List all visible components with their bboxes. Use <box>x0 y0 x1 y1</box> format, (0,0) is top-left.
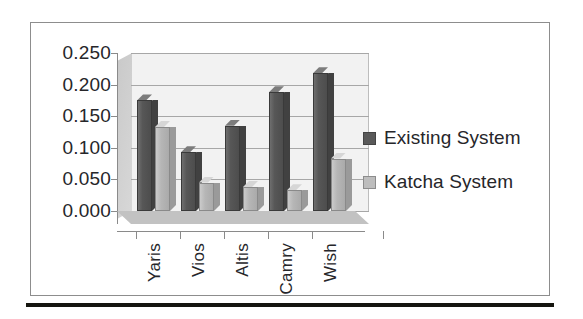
y-axis-tick-label: 0.200 <box>45 75 111 94</box>
plot-area <box>117 45 369 230</box>
legend-label: Katcha System <box>384 171 513 193</box>
x-axis-tick-mark <box>224 231 225 239</box>
bar-camry-katcha <box>287 190 302 211</box>
bar-vios-existing <box>181 152 196 211</box>
y-axis: 0.2500.2000.1500.1000.0500.000 <box>37 23 111 297</box>
bar-front-face <box>225 126 240 211</box>
bar-wish-existing <box>313 73 328 211</box>
bar-front-face <box>287 190 302 211</box>
y-axis-tick-label: 0.050 <box>45 169 111 188</box>
x-axis-label-camry: Camry <box>278 243 295 295</box>
y-axis-tick-label: 0.150 <box>45 106 111 125</box>
bar-front-face <box>137 100 152 211</box>
y-axis-tick-mark <box>111 85 118 86</box>
bar-front-face <box>155 127 170 211</box>
x-axis-tick-mark <box>180 231 181 239</box>
bar-side-face <box>170 127 176 211</box>
bar-altis-katcha <box>243 187 258 211</box>
y-axis-tick-label: 0.100 <box>45 138 111 157</box>
y-axis-tick-mark <box>111 53 118 54</box>
y-axis-tick-mark <box>111 211 118 212</box>
legend-label: Existing System <box>384 127 521 149</box>
chart-legend: Existing SystemKatcha System <box>363 127 543 215</box>
legend-item-katcha-system: Katcha System <box>363 171 543 193</box>
bar-yaris-katcha <box>155 127 170 211</box>
dark-swatch-icon <box>363 132 376 145</box>
y-axis-tick-label: 0.250 <box>45 43 111 62</box>
figure-frame: 0.2500.2000.1500.1000.0500.000 YarisVios… <box>30 22 550 296</box>
x-axis-tick-mark <box>383 231 384 239</box>
bar-side-face <box>346 159 352 211</box>
bar-front-face <box>313 73 328 211</box>
x-axis-tick-mark <box>268 231 269 239</box>
bar-front-face <box>269 92 284 211</box>
light-swatch-icon <box>363 176 376 189</box>
bar-camry-existing <box>269 92 284 211</box>
y-axis-line <box>117 53 118 224</box>
y-axis-tick-mark <box>111 148 118 149</box>
plot-left-wall <box>117 53 132 219</box>
gridline <box>131 53 369 54</box>
x-axis-label-yaris: Yaris <box>146 243 163 282</box>
bar-front-face <box>181 152 196 211</box>
bar-vios-katcha <box>199 183 214 211</box>
bar-yaris-existing <box>137 100 152 211</box>
plot-floor <box>117 211 369 224</box>
y-axis-tick-mark <box>111 116 118 117</box>
x-axis-tick-mark <box>136 231 137 239</box>
x-axis-line <box>117 231 365 232</box>
bar-front-face <box>331 159 346 211</box>
bar-front-face <box>243 187 258 211</box>
bar-wish-katcha <box>331 159 346 211</box>
x-axis-label-altis: Altis <box>234 243 251 277</box>
bar-front-face <box>199 183 214 211</box>
x-axis-label-vios: Vios <box>190 243 207 277</box>
y-axis-tick-label: 0.000 <box>45 201 111 220</box>
x-axis-label-wish: Wish <box>322 243 339 282</box>
x-axis-tick-mark <box>312 231 313 239</box>
legend-item-existing-system: Existing System <box>363 127 543 149</box>
page-bottom-rule <box>26 303 554 307</box>
bar-chart: 0.2500.2000.1500.1000.0500.000 YarisVios… <box>31 23 551 297</box>
y-axis-tick-mark <box>111 179 118 180</box>
bar-altis-existing <box>225 126 240 211</box>
